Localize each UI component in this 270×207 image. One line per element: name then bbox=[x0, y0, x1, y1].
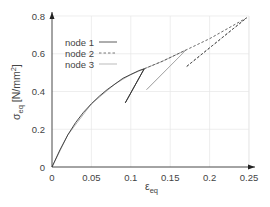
y-tick-label: 0.2 bbox=[32, 124, 45, 135]
legend-label-node-2: node 2 bbox=[65, 48, 94, 59]
x-tick-label: 0.15 bbox=[161, 172, 180, 183]
legend: node 1 node 2 node 3 bbox=[65, 37, 117, 70]
legend-label-node-1: node 1 bbox=[65, 37, 94, 48]
x-tick-labels: 00.050.10.150.20.25 bbox=[49, 172, 258, 183]
legend-label-node-3: node 3 bbox=[65, 59, 94, 70]
x-tick-label: 0.25 bbox=[240, 172, 259, 183]
x-axis-label: εeq bbox=[145, 180, 158, 195]
stress-strain-chart: 00.050.10.150.20.25 00.20.40.60.8 εeq σe… bbox=[0, 0, 270, 207]
y-tick-label: 0.6 bbox=[32, 48, 45, 59]
y-axis-label: σeq [N/mm2] bbox=[9, 64, 25, 120]
series-node-2 bbox=[144, 18, 246, 69]
x-tick-label: 0.1 bbox=[124, 172, 137, 183]
x-tick-label: 0.2 bbox=[203, 172, 216, 183]
y-tick-label: 0.4 bbox=[32, 86, 45, 97]
y-axis-arrow-icon bbox=[50, 12, 55, 19]
x-tick-label: 0 bbox=[49, 172, 54, 183]
series-node-1 bbox=[52, 69, 144, 167]
y-tick-label: 0.8 bbox=[32, 11, 45, 22]
y-tick-label: 0 bbox=[40, 162, 45, 173]
y-tick-labels: 00.20.40.60.8 bbox=[32, 11, 45, 173]
x-tick-label: 0.05 bbox=[82, 172, 101, 183]
x-axis-arrow-icon bbox=[248, 165, 255, 170]
